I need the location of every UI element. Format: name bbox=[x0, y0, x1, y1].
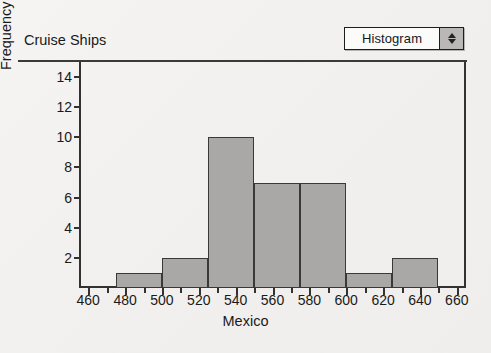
histogram-window: Histogram Cruise Ships 2468101214 Freque… bbox=[0, 0, 491, 353]
histogram-bar bbox=[254, 183, 300, 288]
plot-type-stepper[interactable] bbox=[439, 28, 463, 49]
x-tick-mark bbox=[217, 288, 219, 293]
x-tick-label: 540 bbox=[224, 292, 247, 308]
y-tick-mark bbox=[74, 227, 79, 229]
x-tick-mark bbox=[402, 288, 404, 293]
plot-type-value: Histogram bbox=[345, 28, 439, 49]
histogram-bar bbox=[346, 273, 392, 288]
x-tick-label: 640 bbox=[408, 292, 431, 308]
x-tick-label: 660 bbox=[445, 292, 468, 308]
triangle-up-icon bbox=[448, 33, 456, 38]
x-tick-label: 460 bbox=[77, 292, 100, 308]
y-tick-mark bbox=[74, 136, 79, 138]
y-tick-mark bbox=[74, 197, 79, 199]
x-tick-mark bbox=[438, 288, 440, 293]
histogram-bar bbox=[300, 183, 346, 288]
y-tick-label: 10 bbox=[44, 129, 72, 145]
chart-title: Cruise Ships bbox=[24, 32, 106, 48]
y-tick-label: 12 bbox=[44, 99, 72, 115]
x-tick-label: 580 bbox=[298, 292, 321, 308]
y-tick-mark bbox=[74, 257, 79, 259]
x-axis-label: Mexico bbox=[0, 313, 491, 329]
x-tick-mark bbox=[328, 288, 330, 293]
y-tick-mark bbox=[74, 106, 79, 108]
x-tick-label: 620 bbox=[371, 292, 394, 308]
x-tick-label: 520 bbox=[187, 292, 210, 308]
y-tick-label: 14 bbox=[44, 69, 72, 85]
x-tick-label: 560 bbox=[261, 292, 284, 308]
y-tick-label: 4 bbox=[44, 220, 72, 236]
y-tick-mark bbox=[74, 76, 79, 78]
y-tick-label: 6 bbox=[44, 190, 72, 206]
histogram-bar bbox=[116, 273, 162, 288]
histogram-bar bbox=[208, 137, 254, 288]
x-tick-mark bbox=[254, 288, 256, 293]
x-tick-mark bbox=[144, 288, 146, 293]
histogram-bar bbox=[162, 258, 208, 288]
y-tick-label: 8 bbox=[44, 159, 72, 175]
y-tick-label: 2 bbox=[44, 250, 72, 266]
y-axis-label: Frequency of Mexico bbox=[0, 0, 14, 70]
plot-type-dropdown[interactable]: Histogram bbox=[344, 27, 464, 50]
x-tick-label: 500 bbox=[150, 292, 173, 308]
histogram-bar bbox=[392, 258, 438, 288]
x-tick-mark bbox=[365, 288, 367, 293]
y-tick-mark bbox=[74, 166, 79, 168]
x-tick-mark bbox=[107, 288, 109, 293]
triangle-down-icon bbox=[448, 39, 456, 44]
x-tick-mark bbox=[291, 288, 293, 293]
x-tick-label: 600 bbox=[335, 292, 358, 308]
bars-layer bbox=[79, 62, 466, 288]
x-tick-label: 480 bbox=[113, 292, 136, 308]
x-tick-mark bbox=[180, 288, 182, 293]
